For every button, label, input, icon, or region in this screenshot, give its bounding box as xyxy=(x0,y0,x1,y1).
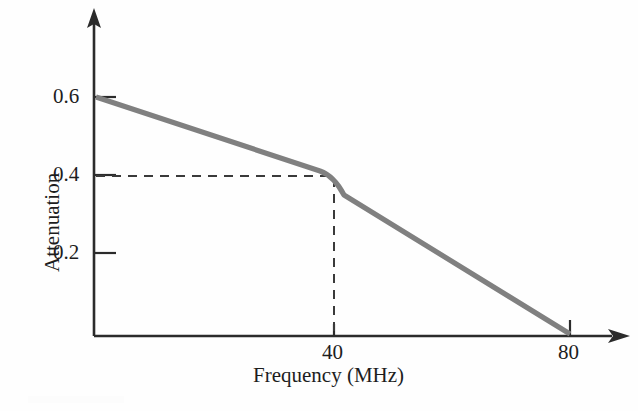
chart-plot-area xyxy=(0,0,638,411)
x-tick-label-40: 40 xyxy=(322,342,343,363)
y-tick-label-0.6: 0.6 xyxy=(53,86,79,107)
page-artifact xyxy=(28,396,124,403)
figure-canvas: 0.6 0.4 0.2 40 80 Attenuation Frequency … xyxy=(0,0,638,411)
x-tick-label-80: 80 xyxy=(558,342,579,363)
x-axis-title: Frequency (MHz) xyxy=(253,365,404,386)
y-axis-title: Attenuation xyxy=(42,173,63,272)
